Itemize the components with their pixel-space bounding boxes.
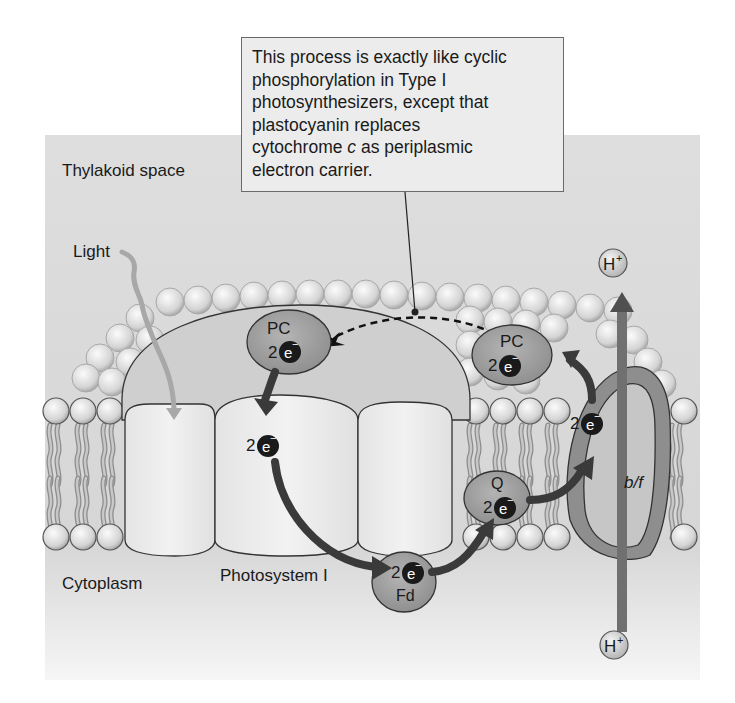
callout-anchor-dot	[412, 309, 419, 316]
thylakoid-space-label: Thylakoid space	[62, 161, 185, 180]
callout-line-3: photosynthesizers, except that	[252, 91, 553, 114]
svg-text:H: H	[604, 637, 616, 656]
svg-text:−: −	[292, 338, 298, 350]
cytoplasm-label: Cytoplasm	[62, 574, 142, 593]
svg-text:Q: Q	[491, 475, 503, 492]
light-label: Light	[73, 242, 110, 261]
photosystem-i-label: Photosystem I	[220, 566, 328, 585]
svg-text:Fd: Fd	[396, 587, 415, 604]
svg-text:2: 2	[391, 563, 400, 582]
svg-text:2: 2	[570, 414, 579, 433]
callout-line-5: cytochrome c as periplasmic	[252, 136, 553, 159]
svg-text:2: 2	[268, 343, 277, 362]
svg-text:+: +	[617, 634, 623, 646]
svg-text:−: −	[507, 494, 513, 506]
svg-text:−: −	[415, 559, 421, 571]
explanation-callout: This process is exactly like cyclic phos…	[241, 37, 564, 192]
svg-text:−: −	[512, 352, 518, 364]
bf-label: b/f	[624, 473, 645, 492]
callout-line-2: phosphorylation in Type I	[252, 69, 553, 92]
callout-line-6: electron carrier.	[252, 159, 553, 182]
svg-text:H: H	[603, 255, 615, 274]
svg-text:PC: PC	[500, 332, 524, 351]
proton-top: H +	[599, 249, 627, 277]
svg-text:2: 2	[483, 498, 492, 517]
callout-line-4: plastocyanin replaces	[252, 114, 553, 137]
callout-line-1: This process is exactly like cyclic	[252, 46, 553, 69]
svg-text:−: −	[270, 432, 276, 444]
svg-text:2: 2	[488, 356, 497, 375]
svg-text:+: +	[616, 252, 622, 264]
svg-text:−: −	[594, 410, 600, 422]
svg-text:2: 2	[246, 436, 255, 455]
proton-bottom: H +	[600, 631, 628, 659]
svg-text:PC: PC	[267, 319, 291, 338]
